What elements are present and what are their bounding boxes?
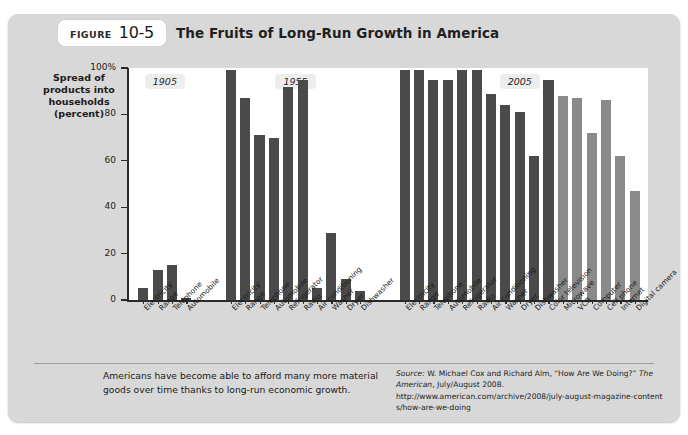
figure-badge-number: 10-5 (119, 23, 154, 42)
y-tick-label: 60 (76, 155, 116, 165)
source-line1-c: , July/August 2008. (432, 380, 504, 389)
bar (615, 156, 625, 300)
bar (572, 98, 582, 300)
bar (543, 80, 553, 300)
bar-series (128, 68, 648, 300)
source-url: http://www.american.com/archive/2008/jul… (396, 392, 666, 413)
bar (529, 156, 539, 300)
figure-caption: Americans have become able to afford man… (103, 369, 388, 396)
y-axis-title-line-0: Spread of (36, 72, 122, 84)
bar (283, 87, 293, 300)
bar (472, 70, 482, 300)
bar (486, 94, 496, 300)
footer-divider (34, 363, 654, 364)
bar (138, 288, 148, 300)
y-axis-title-line-2: households (36, 96, 122, 108)
y-axis-title-line-1: products into (36, 84, 122, 96)
y-tick-label: 80 (76, 108, 116, 118)
bar (400, 70, 410, 300)
bar (443, 80, 453, 300)
y-tick-label: 20 (76, 248, 116, 258)
y-tick-40 (121, 207, 128, 208)
y-tick-label: 100% (76, 62, 116, 72)
figure-number-badge: FIGURE 10-5 (58, 20, 166, 46)
bar (240, 98, 250, 300)
y-tick-label: 0 (76, 294, 116, 304)
y-tick-20 (121, 253, 128, 254)
bar (558, 96, 568, 300)
chart-plot-panel: Spread ofproducts intohouseholds(percent… (26, 54, 662, 354)
figure-title: The Fruits of Long-Run Growth in America (176, 25, 499, 41)
y-tick-0 (121, 299, 128, 300)
figure-card: FIGURE 10-5 The Fruits of Long-Run Growt… (8, 14, 680, 422)
bar (601, 100, 611, 300)
bar (500, 105, 510, 300)
bar (414, 70, 424, 300)
source-line1-a: W. Michael Cox and Richard Alm, “How Are… (425, 369, 639, 378)
y-tick-100% (121, 67, 128, 68)
bar (269, 138, 279, 300)
bar (254, 135, 264, 300)
bar (298, 80, 308, 300)
y-tick-80 (121, 114, 128, 115)
figure-header: FIGURE 10-5 The Fruits of Long-Run Growt… (8, 14, 680, 54)
bar (457, 70, 467, 300)
bar (226, 70, 236, 300)
figure-badge-label: FIGURE (70, 29, 112, 40)
bar (428, 80, 438, 300)
y-tick-label: 40 (76, 201, 116, 211)
figure-source: Source: W. Michael Cox and Richard Alm, … (396, 369, 666, 413)
source-label: Source: (396, 369, 425, 378)
y-tick-60 (121, 160, 128, 161)
